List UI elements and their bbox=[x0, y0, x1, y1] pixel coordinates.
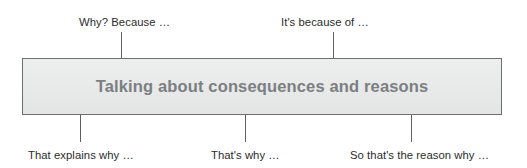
top-connector-line-1 bbox=[121, 32, 122, 58]
top-connector-line-2 bbox=[333, 32, 334, 58]
top-callout-label-2: It's because of … bbox=[281, 17, 369, 28]
center-box: Talking about consequences and reasons bbox=[22, 58, 502, 115]
bottom-callout-label-2: That's why … bbox=[211, 150, 280, 161]
bottom-connector-line-2 bbox=[245, 115, 246, 142]
bottom-connector-line-1 bbox=[80, 115, 81, 142]
top-callout-label-1: Why? Because … bbox=[79, 17, 170, 28]
bottom-connector-line-3 bbox=[411, 115, 412, 142]
bottom-callout-label-1: That explains why … bbox=[28, 150, 134, 161]
center-box-title: Talking about consequences and reasons bbox=[96, 78, 429, 95]
consequences-and-reasons-diagram: Why? Because … It's because of … Talking… bbox=[0, 0, 527, 168]
bottom-callout-label-3: So that's the reason why … bbox=[350, 150, 489, 161]
